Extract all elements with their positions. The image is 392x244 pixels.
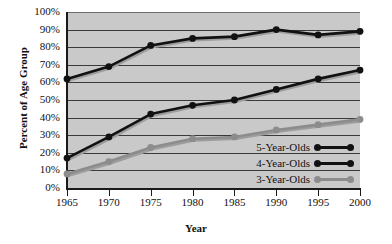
- legend-item[interactable]: 5-Year-Olds: [218, 139, 354, 155]
- data-point: [357, 67, 364, 74]
- legend-item[interactable]: 3-Year-Olds: [218, 171, 354, 187]
- data-point: [105, 134, 112, 141]
- data-point: [273, 127, 280, 134]
- data-point: [231, 33, 238, 40]
- legend: 5-Year-Olds4-Year-Olds3-Year-Olds: [218, 139, 354, 187]
- legend-marker: [347, 144, 354, 151]
- data-point: [315, 31, 322, 38]
- data-point: [315, 75, 322, 82]
- data-point: [273, 86, 280, 93]
- legend-marker: [347, 176, 354, 183]
- legend-swatch: [314, 157, 354, 169]
- data-point: [189, 35, 196, 42]
- data-point: [105, 158, 112, 165]
- data-point: [147, 111, 154, 118]
- data-point: [357, 116, 364, 123]
- legend-label: 4-Year-Olds: [256, 157, 310, 169]
- data-point: [315, 121, 322, 128]
- data-point: [105, 63, 112, 70]
- series-layer: [0, 0, 392, 244]
- x-axis-title: Year: [0, 222, 392, 234]
- data-point: [189, 135, 196, 142]
- legend-swatch: [314, 173, 354, 185]
- data-point: [147, 42, 154, 49]
- data-point: [64, 171, 71, 178]
- legend-label: 3-Year-Olds: [256, 173, 310, 185]
- data-point: [273, 26, 280, 33]
- data-point: [231, 97, 238, 104]
- legend-marker: [347, 160, 354, 167]
- data-point: [189, 102, 196, 109]
- y-axis-title: Percent of Age Group: [17, 23, 29, 173]
- data-point: [64, 155, 71, 162]
- data-point: [357, 28, 364, 35]
- series-shadow: [68, 31, 361, 80]
- data-point: [64, 75, 71, 82]
- series-1: [64, 26, 364, 82]
- legend-marker: [314, 176, 321, 183]
- legend-label: 5-Year-Olds: [256, 141, 310, 153]
- legend-item[interactable]: 4-Year-Olds: [218, 155, 354, 171]
- line-chart: 100%90%80%70%60%50%40%30%20%10%0% 196519…: [0, 0, 392, 244]
- legend-swatch: [314, 141, 354, 153]
- data-point: [147, 144, 154, 151]
- legend-marker: [314, 160, 321, 167]
- legend-marker: [314, 144, 321, 151]
